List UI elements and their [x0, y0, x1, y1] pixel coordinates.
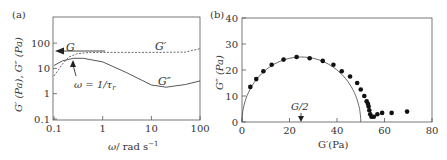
data-point — [366, 104, 371, 109]
svg-text:100: 100 — [191, 123, 210, 134]
panel-a-label: (a) — [12, 9, 26, 20]
svg-text:0.1: 0.1 — [34, 114, 50, 125]
data-point — [320, 59, 325, 64]
data-point — [269, 63, 274, 68]
panel-b: 020406080010203040 G/2 G′(Pa) G″ (Pa) — [214, 13, 438, 151]
g-double-prime-label: G″ — [158, 75, 172, 88]
maxwell-semicircle — [242, 57, 361, 122]
svg-text:30: 30 — [225, 39, 238, 50]
data-point — [254, 77, 259, 82]
g-label: G — [66, 41, 75, 54]
svg-text:40: 40 — [331, 125, 344, 136]
svg-text:100: 100 — [31, 38, 50, 49]
svg-text:0: 0 — [239, 125, 245, 136]
a-x-axis-label: ω/ rad s−1 — [108, 140, 159, 152]
data-point — [380, 111, 385, 116]
data-point — [294, 55, 299, 60]
data-point — [367, 108, 372, 113]
omega-label: ω = 1/τr — [74, 79, 116, 92]
data-point — [339, 69, 344, 74]
svg-text:1: 1 — [44, 88, 50, 99]
svg-text:0: 0 — [232, 117, 238, 128]
svg-text:80: 80 — [426, 125, 439, 136]
data-point — [405, 109, 410, 114]
g-half-label: G/2 — [291, 101, 309, 112]
data-point — [355, 81, 360, 86]
figure: (a) 0.11101000.1110100 G G′ G″ ω = 1/τr … — [0, 0, 447, 160]
b-x-axis-label: G′(Pa) — [318, 139, 348, 150]
g-prime-curve — [54, 49, 200, 76]
svg-text:10: 10 — [145, 123, 158, 134]
g-half-arrowhead-icon — [298, 116, 304, 122]
svg-text:20: 20 — [283, 125, 296, 136]
svg-text:60: 60 — [378, 125, 391, 136]
panel-a: 0.11101000.1110100 G G′ G″ ω = 1/τr ω/ r… — [13, 17, 210, 152]
svg-text:0.1: 0.1 — [46, 123, 62, 134]
b-y-axis-label: G″ (Pa) — [214, 55, 225, 90]
data-point — [358, 87, 363, 92]
crossover-arrowhead-icon — [70, 60, 76, 67]
data-point — [331, 63, 336, 68]
data-point — [248, 85, 253, 90]
data-point — [261, 69, 266, 74]
svg-text:10: 10 — [37, 63, 50, 74]
data-point — [375, 112, 380, 117]
data-point — [348, 74, 353, 79]
svg-text:40: 40 — [225, 13, 238, 24]
svg-text:20: 20 — [225, 65, 238, 76]
panel-b-label: (b) — [210, 9, 224, 20]
data-point — [362, 94, 367, 99]
g-prime-label: G′ — [155, 40, 167, 53]
svg-text:10: 10 — [225, 91, 238, 102]
data-point — [307, 56, 312, 61]
plateau-arrowhead-icon — [55, 48, 64, 55]
data-point — [389, 111, 394, 116]
a-y-axis-label: G′ (Pa), G″ (Pa) — [13, 37, 24, 112]
data-point — [281, 57, 286, 62]
svg-text:1: 1 — [100, 123, 106, 134]
